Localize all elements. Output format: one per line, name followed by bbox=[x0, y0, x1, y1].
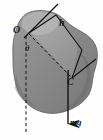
diagram-canvas bbox=[0, 0, 103, 140]
label-pivot-O: O bbox=[13, 25, 20, 35]
label-center-of-mass-C: C bbox=[67, 77, 74, 87]
label-weight-mg: mg bbox=[70, 118, 82, 127]
label-angle-theta: θ bbox=[25, 44, 29, 53]
rigid-body-pendulum-figure: O θ h C mg bbox=[0, 0, 103, 140]
label-distance-h: h bbox=[59, 18, 65, 28]
